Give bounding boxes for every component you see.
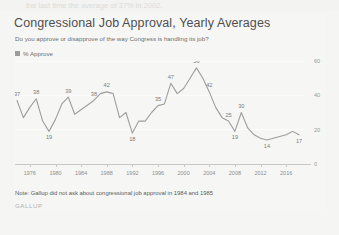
data-label-2018: 17 (296, 138, 302, 144)
x-tick-2016: 2016 (280, 170, 292, 176)
x-tick-1984: 1984 (75, 170, 87, 176)
data-label-1988: 42 (104, 82, 110, 88)
truncated-page-text: the last time the average of 37% in 2002… (0, 0, 339, 11)
x-tickmark-2008 (235, 164, 236, 167)
data-label-2002: 56 (193, 61, 199, 64)
x-tickmark-2000 (184, 164, 185, 167)
data-label-2008: 19 (232, 134, 238, 140)
data-label-1992: 18 (129, 136, 135, 142)
gallup-brand-label: GALLUP (15, 202, 43, 209)
legend-swatch-icon (15, 51, 20, 56)
x-tick-2008: 2008 (229, 170, 241, 176)
legend-item-label: % Approve (23, 50, 53, 57)
x-tick-1980: 1980 (49, 170, 61, 176)
x-tick-1992: 1992 (126, 170, 138, 176)
data-label-1982: 39 (65, 88, 71, 94)
data-label-1979: 19 (46, 134, 52, 140)
data-label-1974: 37 (15, 91, 20, 97)
data-label-1996: 35 (155, 96, 161, 102)
chart-legend: % Approve (15, 50, 53, 57)
y-tick-40: 40 (314, 92, 320, 98)
x-tickmark-1976 (30, 164, 31, 167)
y-tick-0: 0 (314, 161, 317, 167)
data-label-2013: 14 (264, 143, 270, 149)
data-label-2004: 42 (206, 82, 212, 88)
chart-footnote: Note: Gallup did not ask about congressi… (15, 190, 213, 196)
data-label-2007: 25 (225, 112, 231, 118)
data-label-1977: 38 (33, 89, 39, 95)
x-tickmark-1992 (132, 164, 133, 167)
chart-plot-area: 37381939423818354756422519301417 (15, 61, 305, 164)
x-tickmark-2016 (286, 164, 287, 167)
data-label-1998: 47 (168, 74, 174, 80)
data-label-2009: 30 (238, 103, 244, 109)
x-axis-line (15, 164, 311, 165)
line-chart-svg: 37381939423818354756422519301417 (15, 61, 305, 164)
x-tickmark-1988 (107, 164, 108, 167)
x-tick-2012: 2012 (254, 170, 266, 176)
x-axis-labels: 1976198019841988199219962000200420082012… (14, 170, 314, 180)
x-tick-1976: 1976 (24, 170, 36, 176)
gallup-chart-card: Congressional Job Approval, Yearly Avera… (14, 14, 326, 214)
x-tick-2004: 2004 (203, 170, 215, 176)
chart-subtitle: Do you approve or disapprove of the way … (15, 35, 209, 42)
x-tickmark-2004 (209, 164, 210, 167)
x-tick-1988: 1988 (101, 170, 113, 176)
x-tickmark-1980 (56, 164, 57, 167)
x-tickmark-1984 (81, 164, 82, 167)
page-title: Congressional Job Approval, Yearly Avera… (14, 16, 270, 30)
x-tickmark-2012 (261, 164, 262, 167)
series-line-approve (17, 68, 299, 140)
y-axis-labels: 0204060 (314, 61, 339, 173)
x-tick-2000: 2000 (177, 170, 189, 176)
x-tick-1996: 1996 (152, 170, 164, 176)
y-tick-20: 20 (314, 127, 320, 133)
x-tickmark-1996 (158, 164, 159, 167)
y-tick-60: 60 (314, 58, 320, 64)
data-label-1986: 38 (91, 91, 97, 97)
